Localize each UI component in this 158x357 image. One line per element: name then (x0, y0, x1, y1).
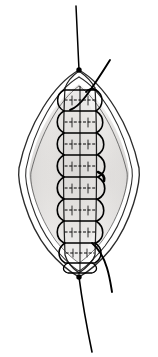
thread-top-tail (76, 6, 79, 70)
top-knot-icon (76, 67, 81, 72)
thread-bottom-tail (79, 277, 92, 352)
illustration-canvas: Line drawing of a lens-shaped (elliptica… (0, 0, 158, 357)
wound-tissue-body (18, 70, 140, 277)
bottom-knot-icon (76, 274, 81, 279)
suture-illustration-svg (0, 0, 158, 357)
